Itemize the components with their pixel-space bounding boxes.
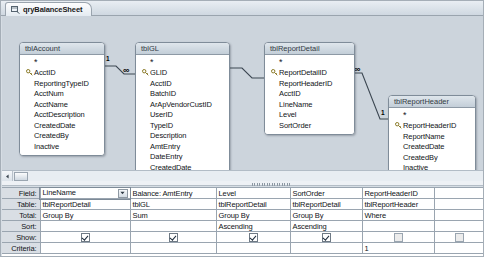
field-row[interactable]: BatchID: [136, 89, 229, 100]
show-checkbox[interactable]: [322, 233, 331, 242]
field-name: AcctDescription: [34, 110, 85, 119]
grid-cell-show-3[interactable]: [290, 232, 362, 243]
pane-splitter-handle[interactable]: [247, 182, 295, 186]
grid-cell-sort-5[interactable]: [434, 221, 484, 232]
field-row[interactable]: AcctID: [265, 89, 354, 100]
tab-qrybalancesheet[interactable]: qryBalanceSheet: [5, 2, 92, 16]
chevron-down-icon[interactable]: [118, 189, 128, 198]
grid-cell-criteria-4[interactable]: 1: [362, 243, 434, 254]
field-row[interactable]: LineName: [265, 99, 354, 110]
show-checkbox[interactable]: [169, 233, 178, 242]
grid-cell-show-1[interactable]: [130, 232, 216, 243]
field-row[interactable]: CreatedBy: [389, 152, 475, 163]
grid-cell-field-4[interactable]: ReportHeaderID: [362, 188, 434, 199]
field-row[interactable]: AcctNum: [20, 89, 104, 100]
grid-cell-table-1[interactable]: tblGL: [130, 199, 216, 210]
grid-cell-sort-0[interactable]: [40, 221, 130, 232]
grid-cell-criteria-3[interactable]: [290, 243, 362, 254]
table-field-list: * GLID AcctID BatchID ArApVendorCustID U…: [136, 55, 229, 170]
scroll-left-arrow-icon[interactable]: [2, 171, 13, 181]
field-row[interactable]: AcctName: [20, 99, 104, 110]
grid-cell-table-3[interactable]: tblReportDetail: [290, 199, 362, 210]
grid-cell-total-4[interactable]: Where: [362, 210, 434, 221]
field-row[interactable]: GLID: [136, 68, 229, 79]
field-row[interactable]: UserID: [136, 110, 229, 121]
field-row[interactable]: CreatedDate: [136, 162, 229, 170]
grid-cell-sort-3[interactable]: Ascending: [290, 221, 362, 232]
field-row[interactable]: Inactive: [389, 163, 475, 171]
table-box-header[interactable]: tblReportHeader: [389, 96, 475, 108]
grid-cell-table-5[interactable]: [434, 199, 484, 210]
field-row[interactable]: ArApVendorCustID: [136, 99, 229, 110]
table-box-header[interactable]: tblAccount: [20, 43, 104, 55]
show-checkbox[interactable]: [394, 233, 403, 242]
grid-cell-field-2[interactable]: Level: [216, 188, 290, 199]
grid-cell-sort-1[interactable]: [130, 221, 216, 232]
field-row[interactable]: AcctDescription: [20, 110, 104, 121]
scrollbar-track[interactable]: [28, 171, 484, 182]
field-row[interactable]: *: [265, 57, 354, 68]
grid-cell-show-5[interactable]: [434, 232, 484, 243]
grid-cell-show-4[interactable]: [362, 232, 434, 243]
grid-cell-table-0[interactable]: tblReportDetail: [40, 199, 130, 210]
qbe-grid-pane[interactable]: Field: LineName Balance: AmtEntry Level …: [2, 187, 484, 257]
field-row[interactable]: Description: [136, 131, 229, 142]
field-row[interactable]: Inactive: [20, 141, 104, 152]
grid-cell-field-5[interactable]: [434, 188, 484, 199]
table-box-tblreportheader[interactable]: tblReportHeader * ReportHeaderID ReportN…: [388, 95, 476, 170]
field-row[interactable]: Level: [265, 110, 354, 121]
field-row[interactable]: *: [389, 110, 475, 121]
table-box-header[interactable]: tblGL: [136, 43, 229, 55]
show-checkbox[interactable]: [81, 233, 90, 242]
table-box-tblreportdetail[interactable]: tblReportDetail * ReportDetailID ReportH…: [264, 42, 355, 135]
table-box-tblgl[interactable]: tblGL * GLID AcctID BatchID: [135, 42, 230, 170]
field-row[interactable]: ReportName: [389, 131, 475, 142]
field-row[interactable]: CreatedDate: [20, 120, 104, 131]
field-row[interactable]: ReportingTypeID: [20, 78, 104, 89]
field-name: Inactive: [403, 163, 428, 170]
field-row[interactable]: DateEntry: [136, 152, 229, 163]
grid-cell-total-0[interactable]: Group By: [40, 210, 130, 221]
field-row[interactable]: AmtEntry: [136, 141, 229, 152]
grid-cell-sort-2[interactable]: Ascending: [216, 221, 290, 232]
grid-cell-total-3[interactable]: Group By: [290, 210, 362, 221]
grid-cell-total-1[interactable]: Sum: [130, 210, 216, 221]
field-row[interactable]: AcctID: [136, 78, 229, 89]
show-checkbox[interactable]: [249, 233, 258, 242]
field-row[interactable]: AcctID: [20, 68, 104, 79]
grid-cell-table-4[interactable]: tblReportHeader: [362, 199, 434, 210]
grid-cell-field-3[interactable]: SortOrder: [290, 188, 362, 199]
field-row[interactable]: ReportHeaderID: [265, 78, 354, 89]
grid-cell-criteria-5[interactable]: [434, 243, 484, 254]
grid-cell-table-2[interactable]: tblReportDetail: [216, 199, 290, 210]
qbe-grid: Field: LineName Balance: AmtEntry Level …: [2, 187, 484, 254]
grid-cell-total-5[interactable]: [434, 210, 484, 221]
grid-cell-sort-4[interactable]: [362, 221, 434, 232]
grid-cell-criteria-2[interactable]: [216, 243, 290, 254]
field-row[interactable]: CreatedBy: [20, 131, 104, 142]
show-checkbox[interactable]: [455, 233, 464, 242]
field-row[interactable]: *: [136, 57, 229, 68]
field-row[interactable]: TypeID: [136, 120, 229, 131]
table-box-tblaccount[interactable]: tblAccount * AcctID ReportingTypeID: [19, 42, 105, 156]
row-label-criteria: Criteria:: [2, 243, 40, 254]
diagram-horizontal-scrollbar[interactable]: [2, 170, 484, 181]
grid-cell-show-0[interactable]: [40, 232, 130, 243]
grid-cell-show-2[interactable]: [216, 232, 290, 243]
field-row[interactable]: SortOrder: [265, 120, 354, 131]
field-name: CreatedDate: [150, 163, 191, 170]
query-design-icon: [11, 5, 20, 14]
field-row[interactable]: ReportHeaderID: [389, 121, 475, 132]
table-diagram-pane[interactable]: 1 ∞ ∞ 1 tblAccount * Ac: [2, 16, 484, 170]
field-name: AcctID: [279, 89, 301, 98]
scrollbar-thumb[interactable]: [14, 172, 28, 181]
grid-cell-field-1[interactable]: Balance: AmtEntry: [130, 188, 216, 199]
grid-cell-total-2[interactable]: Group By: [216, 210, 290, 221]
table-box-header[interactable]: tblReportDetail: [265, 43, 354, 55]
field-row[interactable]: *: [20, 57, 104, 68]
grid-cell-criteria-1[interactable]: [130, 243, 216, 254]
field-row[interactable]: CreatedDate: [389, 142, 475, 153]
grid-cell-field-0[interactable]: LineName: [40, 188, 130, 199]
grid-cell-criteria-0[interactable]: [40, 243, 130, 254]
field-row[interactable]: ReportDetailID: [265, 68, 354, 79]
